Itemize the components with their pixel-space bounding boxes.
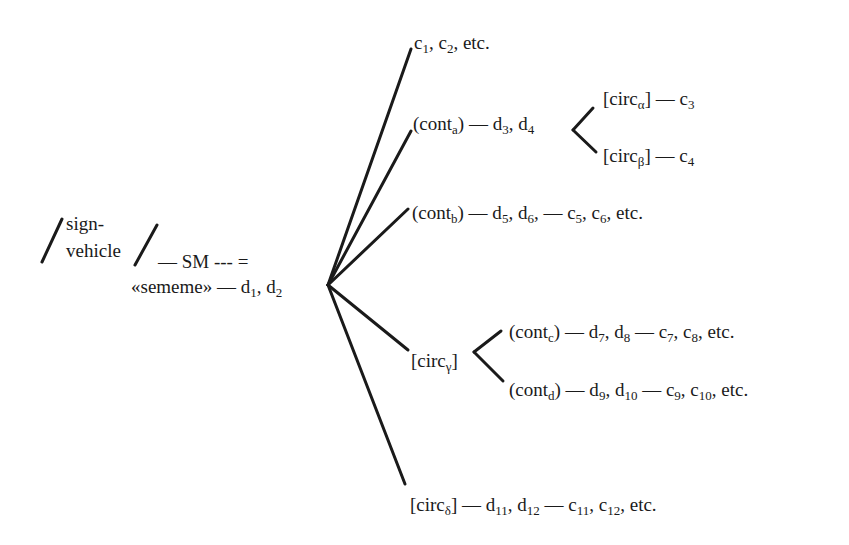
t: [circ xyxy=(411,350,446,371)
branch-cont-c: (contc) — d7, d8 — c7, c8, etc. xyxy=(509,321,734,343)
branch-circ-beta: [circβ] — c4 xyxy=(603,145,694,167)
t: ) — d xyxy=(458,202,502,223)
branch-c1-c2: c1, c2, etc. xyxy=(414,32,490,54)
t: , — c xyxy=(534,202,576,223)
sub: 10 xyxy=(699,388,712,403)
t: [circ xyxy=(410,494,445,515)
sememe-label: «sememe» — d1, d2 xyxy=(131,276,282,298)
sub: 4 xyxy=(688,154,695,169)
sub: 2 xyxy=(276,285,283,300)
slash-left xyxy=(42,219,62,262)
sub: 11 xyxy=(577,503,590,518)
sememe-text: «sememe» — d xyxy=(131,276,250,297)
t: ] — c xyxy=(645,88,688,109)
t: — c xyxy=(630,321,667,342)
sign-vehicle-line1: sign- xyxy=(66,213,104,235)
t: , etc. xyxy=(620,494,656,515)
t: ) — d xyxy=(555,379,599,400)
t: , etc. xyxy=(712,379,748,400)
t: , c xyxy=(429,32,447,53)
edge-b2-alpha2 xyxy=(573,130,596,152)
t: (cont xyxy=(413,113,452,134)
t: , c xyxy=(589,494,607,515)
sub: 11 xyxy=(495,503,508,518)
branch-cont-a: (conta) — d3, d4 xyxy=(413,113,534,135)
t: , c xyxy=(681,379,699,400)
t: , c xyxy=(674,321,692,342)
tree-lines xyxy=(0,0,849,545)
sign-vehicle-line2: vehicle xyxy=(66,240,121,262)
sub: α xyxy=(638,97,645,112)
sub: 12 xyxy=(607,503,620,518)
sub: 12 xyxy=(527,503,540,518)
t: (cont xyxy=(412,202,451,223)
slash-right xyxy=(135,225,157,265)
edge-b2-alpha xyxy=(573,108,593,130)
semiotic-tree-diagram: sign- vehicle — SM --- = «sememe» — d1, … xyxy=(0,0,849,545)
t: — c xyxy=(540,494,577,515)
sub: 3 xyxy=(688,97,695,112)
t: — c xyxy=(637,379,674,400)
t: ) — d xyxy=(554,321,598,342)
t: , etc. xyxy=(607,202,643,223)
t: (cont xyxy=(509,321,548,342)
t: [circ xyxy=(603,145,638,166)
branch-circ-gamma: [circγ] xyxy=(411,350,458,372)
sub: 4 xyxy=(528,122,535,137)
t: (cont xyxy=(509,379,548,400)
t: , d xyxy=(508,202,527,223)
edge-b2 xyxy=(328,131,411,285)
t: [circ xyxy=(603,88,638,109)
branch-circ-alpha: [circα] — c3 xyxy=(603,88,694,110)
edge-b4-d xyxy=(474,352,503,381)
edge-b4-c xyxy=(474,331,501,352)
branch-cont-b: (contb) — d5, d6, — c5, c6, etc. xyxy=(412,202,643,224)
t: , d xyxy=(605,321,624,342)
t: , c xyxy=(582,202,600,223)
t: , d xyxy=(605,379,624,400)
t: ] — d xyxy=(451,494,495,515)
edge-b1 xyxy=(328,49,411,285)
sm-label: — SM --- = xyxy=(158,251,248,273)
sub: 10 xyxy=(624,388,637,403)
t: , d xyxy=(508,494,527,515)
t: ] xyxy=(452,350,458,371)
t: , d xyxy=(509,113,528,134)
t: , etc. xyxy=(453,32,489,53)
t: ) — d xyxy=(458,113,502,134)
t: , etc. xyxy=(698,321,734,342)
sep: , d xyxy=(257,276,276,297)
branch-circ-delta: [circδ] — d11, d12 — c11, c12, etc. xyxy=(410,494,657,516)
branch-cont-d: (contd) — d9, d10 — c9, c10, etc. xyxy=(509,379,748,401)
t: ] — c xyxy=(644,145,687,166)
